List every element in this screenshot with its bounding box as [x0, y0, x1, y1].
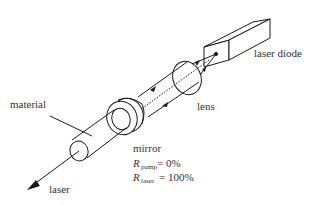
lens [168, 57, 206, 99]
material-label: material [10, 98, 46, 110]
svg-text:= 0%: = 0% [157, 157, 181, 169]
laser-diagram: laser diode lens material mirror R pump … [0, 0, 323, 206]
r-laser-equation: R laser = 100% [132, 171, 194, 185]
laser-diode-label: laser diode [254, 47, 302, 59]
material-leader-line [50, 116, 92, 136]
svg-text:pump: pump [141, 163, 157, 171]
mirror [102, 94, 148, 139]
r-pump-equation: R pump = 0% [132, 157, 181, 171]
svg-text:laser: laser [141, 177, 155, 185]
mirror-label: mirror [133, 142, 161, 154]
svg-text:= 100%: = 100% [159, 171, 194, 183]
svg-text:R: R [132, 157, 140, 169]
laser-diode-box [204, 19, 270, 67]
lens-label: lens [197, 100, 215, 112]
svg-text:R: R [132, 171, 140, 183]
laser-output-label: laser [49, 183, 70, 195]
